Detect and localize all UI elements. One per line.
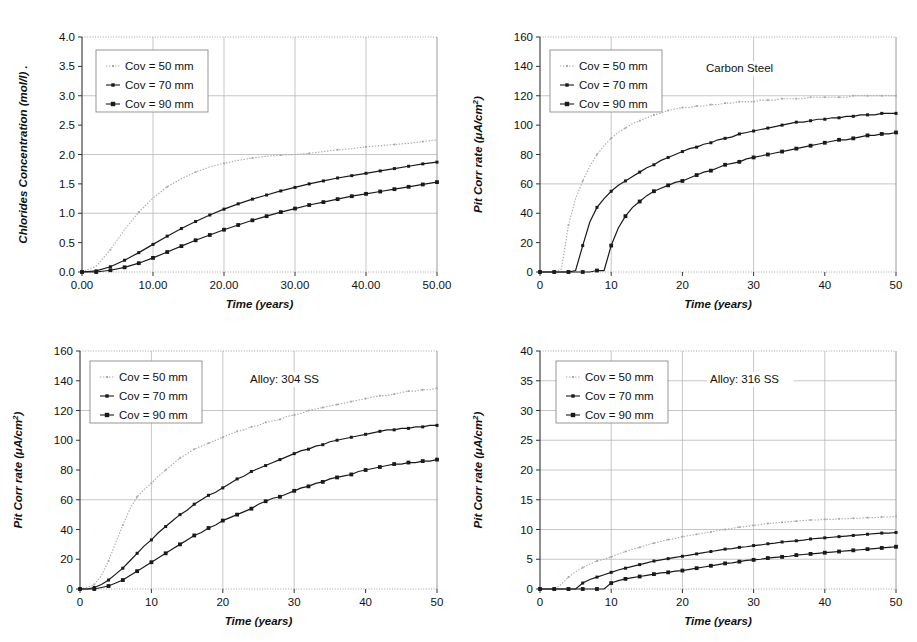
legend-marker-1 <box>105 394 108 397</box>
legend-label-1: Cov = 70 mm <box>585 390 654 402</box>
series-group <box>538 95 898 274</box>
data-marker <box>280 154 282 156</box>
data-marker <box>251 198 254 201</box>
data-marker <box>709 564 713 568</box>
data-marker <box>723 163 727 167</box>
data-marker <box>135 569 139 573</box>
x-axis-title: Time (years) <box>684 615 752 627</box>
data-marker <box>582 567 584 569</box>
data-marker <box>349 473 353 477</box>
data-marker <box>610 137 612 139</box>
series-line-1 <box>80 425 437 589</box>
panel-alloy-316-ss: 051015202530354001020304050Time (years)P… <box>460 321 917 642</box>
data-marker <box>435 458 439 462</box>
data-marker <box>208 442 210 444</box>
y-tick-label: 60 <box>520 178 533 190</box>
y-tick-label: 3.5 <box>59 60 75 72</box>
data-marker <box>137 261 141 265</box>
legend-marker-2 <box>105 413 109 417</box>
data-marker <box>93 584 95 586</box>
data-marker <box>753 101 755 103</box>
data-marker <box>223 208 226 211</box>
data-marker <box>852 534 855 537</box>
data-marker <box>695 146 698 149</box>
data-marker <box>810 519 812 521</box>
data-marker <box>393 393 395 395</box>
data-marker <box>107 584 111 588</box>
data-marker <box>838 116 841 119</box>
data-marker <box>652 560 655 563</box>
y-tick-label: 120 <box>514 90 533 102</box>
chart-alloy-304-ss: 02040608010012014016001020304050Time (ye… <box>0 321 460 642</box>
y-tick-label: 40 <box>60 524 73 536</box>
data-marker <box>552 270 556 274</box>
legend: Cov = 50 mmCov = 70 mmCov = 90 mm <box>550 50 662 112</box>
y-tick-label: 1.0 <box>59 207 75 219</box>
series-line-2 <box>80 460 437 589</box>
data-marker <box>278 495 282 499</box>
x-tick-label: 0.00 <box>71 279 93 291</box>
data-marker <box>567 270 571 274</box>
data-marker <box>638 563 641 566</box>
data-marker <box>378 465 382 469</box>
data-marker <box>208 214 211 217</box>
data-marker <box>337 149 339 151</box>
y-tick-label: 30 <box>520 405 533 417</box>
data-marker <box>723 562 727 566</box>
data-marker <box>436 161 439 164</box>
data-marker <box>581 244 584 247</box>
legend-marker-0 <box>566 65 568 67</box>
legend-label-0: Cov = 50 mm <box>585 371 654 383</box>
data-marker <box>207 526 211 530</box>
x-axis-ticks: 01020304050 <box>77 589 444 608</box>
data-marker <box>164 551 168 555</box>
data-marker <box>724 102 726 104</box>
data-marker <box>568 224 570 226</box>
legend-marker-1 <box>571 394 574 397</box>
data-marker <box>279 419 281 421</box>
data-marker <box>867 95 869 97</box>
data-marker <box>695 566 699 570</box>
data-marker <box>222 436 224 438</box>
data-marker <box>250 470 253 473</box>
data-marker <box>681 555 684 558</box>
data-marker <box>165 469 167 471</box>
data-marker <box>194 238 198 242</box>
panel-annotation: Alloy: 316 SS <box>710 373 779 385</box>
data-marker <box>852 517 854 519</box>
x-axis-title: Time (years) <box>226 298 294 310</box>
series-line-2 <box>82 182 437 272</box>
data-marker <box>408 390 410 392</box>
data-marker <box>292 489 296 493</box>
data-marker <box>737 160 741 164</box>
data-marker <box>136 552 139 555</box>
x-tick-label: 10 <box>605 279 618 291</box>
data-marker <box>364 433 367 436</box>
data-marker <box>109 265 112 268</box>
data-marker <box>407 461 411 465</box>
legend-label-1: Cov = 70 mm <box>119 390 188 402</box>
legend-marker-0 <box>572 376 574 378</box>
y-axis-title: Pit Corr rate (μA/cm2) <box>11 411 24 528</box>
legend-marker-2 <box>111 102 115 106</box>
data-marker <box>336 197 340 201</box>
data-marker <box>609 581 613 585</box>
series-line-1 <box>540 532 896 589</box>
y-tick-label: 40 <box>520 207 533 219</box>
chart-carbon-steel: 02040608010012014016001020304050Time (ye… <box>460 0 917 321</box>
data-marker <box>724 137 727 140</box>
data-marker <box>895 112 898 115</box>
data-marker <box>538 587 542 591</box>
data-marker <box>780 150 784 154</box>
data-marker <box>336 177 339 180</box>
y-tick-label: 1.5 <box>59 178 75 190</box>
data-marker <box>393 187 397 191</box>
data-marker <box>695 173 699 177</box>
data-marker <box>251 218 255 222</box>
legend-label-0: Cov = 50 mm <box>125 60 194 72</box>
y-tick-label: 0 <box>527 266 533 278</box>
data-marker <box>552 587 556 591</box>
data-marker <box>208 233 212 237</box>
legend-marker-1 <box>565 83 568 86</box>
data-marker <box>809 119 812 122</box>
